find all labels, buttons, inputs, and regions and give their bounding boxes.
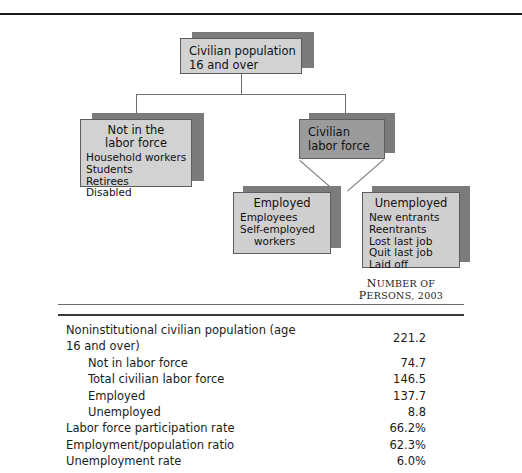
table-column-header: NUMBER OF PERSONS, 2003 [338,278,464,301]
labor-force-statistics-table: NUMBER OF PERSONS, 2003 Noninstitutional… [58,278,464,470]
node-title-line2: 16 and over [189,58,301,72]
row-label: Employed [58,388,306,404]
node-title: Civilian population [189,44,301,58]
statistics-table: Noninstitutional civilian population (ag… [58,322,464,470]
list-item: Students [86,164,191,176]
node-civilian-labor-force[interactable]: Civilian labor force [299,119,385,159]
row-value: 6.0% [306,453,464,469]
table-row: Noninstitutional civilian population (ag… [58,322,464,355]
node-item-list: Household workers Students Retirees Disa… [86,152,191,199]
node-item-list: Employees Self-employed workers [240,212,330,247]
connector-root-down [241,74,242,94]
table-row: Unemployment rate6.0% [58,453,464,469]
connector-root-horizontal [136,94,346,95]
table-row: Not in labor force74.7 [58,355,464,371]
table-row: Unemployed8.8 [58,404,464,420]
row-label: Noninstitutional civilian population (ag… [58,322,306,355]
figure-canvas: Civilian population 16 and over Not in t… [0,0,522,473]
row-value: 146.5 [306,371,464,387]
node-title-line2: labor force [308,140,384,154]
row-label: Total civilian labor force [58,371,306,387]
node-title: Employed [234,196,330,210]
list-item: Reentrants [369,224,459,236]
column-header-line2: PERSONS, 2003 [338,290,464,302]
row-label: Unemployed [58,404,306,420]
table-body: Noninstitutional civilian population (ag… [58,322,464,470]
node-employed[interactable]: Employed Employees Self-employed workers [233,192,331,254]
list-item: Self-employed [240,224,330,236]
node-unemployed[interactable]: Unemployed New entrants Reentrants Lost … [362,192,460,268]
column-header-line1: NUMBER OF [338,278,464,290]
header-underline-rule [58,304,464,305]
list-item: workers [254,236,330,248]
node-civilian-population[interactable]: Civilian population 16 and over [180,38,302,74]
table-row: Labor force participation rate66.2% [58,420,464,436]
top-divider-rule [0,13,522,15]
node-title: Unemployed [363,196,459,210]
node-title-line2: labor force [81,137,191,150]
row-label: Labor force participation rate [58,420,306,436]
table-row: Employed137.7 [58,388,464,404]
row-value: 74.7 [306,355,464,371]
node-not-in-labor-force[interactable]: Not in the labor force Household workers… [80,119,192,187]
row-value: 137.7 [306,388,464,404]
table-row: Employment/population ratio62.3% [58,437,464,453]
list-item: Disabled [86,187,191,199]
row-value: 62.3% [306,437,464,453]
row-label: Employment/population ratio [58,437,306,453]
list-item: Laid off [369,259,459,271]
row-value: 66.2% [306,420,464,436]
row-label: Unemployment rate [58,453,306,469]
node-item-list: New entrants Reentrants Lost last job Qu… [369,212,459,271]
node-title: Civilian [308,126,384,140]
row-value: 8.8 [306,404,464,420]
row-label: Not in labor force [58,355,306,371]
row-value: 221.2 [306,322,464,355]
table-row: Total civilian labor force146.5 [58,371,464,387]
table-top-rule [58,314,464,316]
